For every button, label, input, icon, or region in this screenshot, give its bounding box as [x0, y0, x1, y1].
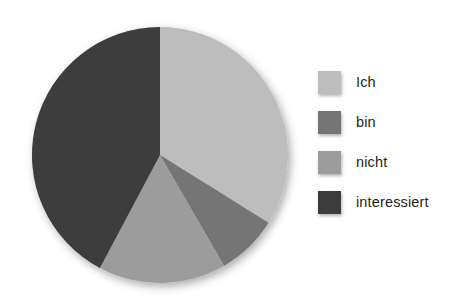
legend-swatch-bin: [318, 111, 341, 134]
legend-label-ich: Ich: [356, 75, 376, 90]
legend-item-bin[interactable]: bin: [318, 102, 454, 142]
legend-label-interessiert: interessiert: [356, 195, 429, 210]
pie-svg: [17, 12, 303, 298]
legend-label-bin: bin: [356, 115, 376, 130]
pie-chart-figure: Ich bin nicht interessiert: [0, 0, 458, 301]
legend-swatch-ich: [318, 71, 341, 94]
legend-item-ich[interactable]: Ich: [318, 62, 454, 102]
legend-item-nicht[interactable]: nicht: [318, 142, 454, 182]
legend-swatch-interessiert: [318, 191, 341, 214]
legend-item-interessiert[interactable]: interessiert: [318, 182, 454, 222]
legend-swatch-nicht: [318, 151, 341, 174]
pie-slice-group: [32, 27, 288, 283]
pie-chart-graphic: [17, 12, 303, 298]
legend-label-nicht: nicht: [356, 155, 387, 170]
chart-legend: Ich bin nicht interessiert: [318, 62, 454, 222]
